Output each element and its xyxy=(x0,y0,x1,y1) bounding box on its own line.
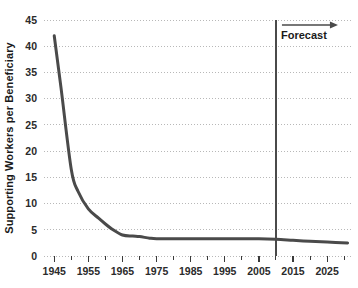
y-tick-label-30: 30 xyxy=(25,92,37,104)
y-tick-label-25: 25 xyxy=(25,119,37,131)
x-tick-label-1965: 1965 xyxy=(111,265,135,277)
y-tick-label-10: 10 xyxy=(25,197,37,209)
gridlines xyxy=(44,20,351,230)
chart-container: 051015202530354045Supporting Workers per… xyxy=(0,0,358,288)
x-tick-label-1975: 1975 xyxy=(145,265,169,277)
x-axis: 194519551965197519851995200520152025 xyxy=(43,256,351,277)
x-tick-label-2015: 2015 xyxy=(281,265,305,277)
x-tick-label-1955: 1955 xyxy=(77,265,101,277)
x-tick-label-2005: 2005 xyxy=(247,265,271,277)
y-tick-label-35: 35 xyxy=(25,66,37,78)
y-tick-label-5: 5 xyxy=(31,224,37,236)
y-axis-title-text: Supporting Workers per Beneficiary xyxy=(3,41,15,233)
supporting-workers-line-chart: 051015202530354045Supporting Workers per… xyxy=(0,0,358,288)
forecast-arrow-head-icon xyxy=(330,21,338,28)
x-tick-label-2025: 2025 xyxy=(315,265,339,277)
x-tick-label-1995: 1995 xyxy=(213,265,237,277)
x-tick-label-1985: 1985 xyxy=(179,265,203,277)
y-axis-ticks: 051015202530354045 xyxy=(25,14,37,262)
y-tick-label-40: 40 xyxy=(25,40,37,52)
forecast-label: Forecast xyxy=(281,29,327,41)
y-tick-label-15: 15 xyxy=(25,171,37,183)
y-tick-label-45: 45 xyxy=(25,14,37,26)
forecast-annotation: Forecast xyxy=(276,20,338,256)
x-tick-label-1945: 1945 xyxy=(43,265,67,277)
y-tick-label-20: 20 xyxy=(25,145,37,157)
y-axis-title: Supporting Workers per Beneficiary xyxy=(3,41,15,233)
series-group xyxy=(54,36,347,243)
data-line-0 xyxy=(54,36,347,243)
y-tick-label-0: 0 xyxy=(31,250,37,262)
